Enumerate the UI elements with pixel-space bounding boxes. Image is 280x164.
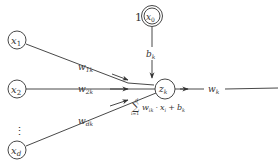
ellipsis: ⋮ <box>14 125 25 138</box>
weight-label-w2k: w2k <box>78 84 94 95</box>
neuron-zk: zk <box>155 79 175 99</box>
weight-label-wdk: wdk <box>78 116 94 127</box>
output-weight-label-wk: wk <box>208 84 220 95</box>
svg-text:wik·xi+bk: wik·xi+bk <box>142 103 185 113</box>
bias-node-x0: 1 x0 <box>135 6 163 27</box>
edge-x1-zk <box>26 44 154 85</box>
edge-output <box>175 88 278 89</box>
weight-label-w1k: w1k <box>78 62 94 73</box>
input-node-x1: x1 <box>8 31 26 49</box>
input-node-xd: xd <box>8 141 26 159</box>
input-node-x2: x2 <box>8 80 26 98</box>
svg-text:i=1: i=1 <box>131 111 139 116</box>
bias-constant: 1 <box>135 11 142 24</box>
neuron-diagram: x1 x2 ⋮ xd w1k w2k wdk 1 x0 bk zk d ∑ i=… <box>0 0 280 164</box>
bias-label-bk: bk <box>146 49 156 60</box>
